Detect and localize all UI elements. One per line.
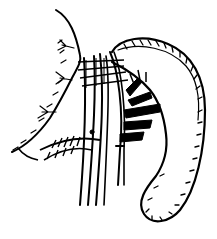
clamp-3 — [96, 54, 102, 205]
clamp-4 — [104, 56, 108, 205]
vessel-branch-low — [38, 106, 56, 118]
clamp-1 — [80, 58, 85, 205]
clamp-hinge — [90, 130, 94, 134]
ligature-band — [78, 58, 128, 88]
left-organ-outline — [12, 10, 80, 152]
left-organ-hatching — [13, 40, 66, 150]
anatomical-illustration — [0, 0, 217, 239]
illustration-canvas — [0, 0, 217, 239]
